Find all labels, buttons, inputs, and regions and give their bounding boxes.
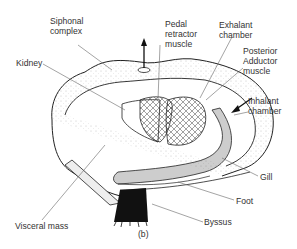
label-kidney: Kidney [16, 58, 42, 68]
siphon-opening [138, 68, 150, 73]
byssus-threads [114, 188, 148, 227]
panel-label: (b) [138, 229, 149, 239]
label-visceral-mass: Visceral mass [15, 221, 68, 231]
label-gill: Gill [260, 172, 272, 182]
label-exhalant-chamber: Exhalant chamber [219, 20, 252, 40]
label-pedal-retractor-muscle: Pedal retractor muscle [165, 19, 197, 49]
label-posterior-adductor-muscle: Posterior Adductor muscle [243, 46, 277, 76]
label-foot: Foot [236, 196, 253, 206]
label-inhalant-chamber: Inhalant chamber [248, 96, 281, 116]
arrow-head-icon [141, 38, 147, 46]
label-byssus: Byssus [204, 217, 232, 227]
label-siphonal-complex: Siphonal complex [50, 16, 83, 36]
